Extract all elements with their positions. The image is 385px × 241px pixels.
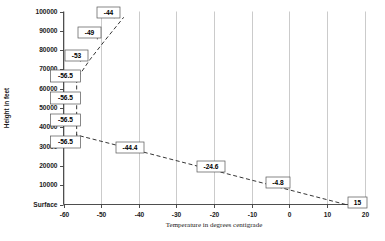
- x-tick-label-0: 0: [288, 211, 292, 218]
- callout-value: -24.6: [203, 163, 218, 170]
- x-tick-label--20: -20: [210, 211, 220, 218]
- y-tick-label-80000: 80000: [39, 46, 58, 53]
- x-axis-title: Temperature in degrees centigrade: [166, 221, 263, 229]
- chart-figure: Surface100002000030000400005000060000700…: [0, 0, 385, 241]
- temperature-altitude-chart: Surface100002000030000400005000060000700…: [0, 0, 385, 241]
- callout-label: 15: [348, 197, 367, 208]
- callout-value: 15: [354, 199, 362, 206]
- x-tick-label--60: -60: [60, 211, 70, 218]
- callout-label: -56.5: [51, 136, 81, 148]
- y-tick-label-10000: 10000: [39, 181, 58, 188]
- callout-label: -49: [78, 27, 101, 38]
- y-tick-label-20000: 20000: [39, 162, 58, 169]
- y-tick-label-100000: 100000: [35, 8, 57, 15]
- callout-label: -24.6: [197, 161, 225, 172]
- y-tick-label-60000: 60000: [39, 85, 58, 92]
- callout-value: -56.5: [58, 138, 73, 145]
- callout-label: -53: [65, 50, 88, 61]
- callout-value: -56.5: [58, 116, 73, 123]
- callout-label: -44.4: [116, 142, 144, 153]
- y-tick-label-Surface: Surface: [33, 201, 58, 208]
- callout-value: -53: [72, 52, 82, 59]
- callout-label: -4.8: [266, 177, 290, 188]
- x-axis-tick-labels: -60-50-40-30-20-1001020: [60, 211, 370, 218]
- y-axis-title: Height in feet: [3, 87, 11, 128]
- x-tick-label--50: -50: [97, 211, 107, 218]
- callout-value: -44.4: [122, 144, 137, 151]
- x-tick-label--40: -40: [135, 211, 145, 218]
- callout-value: -56.5: [58, 94, 73, 101]
- callout-label: -44: [97, 7, 120, 18]
- callout-value: -56.5: [58, 72, 73, 79]
- y-tick-label-50000: 50000: [39, 104, 58, 111]
- callout-label: -56.5: [51, 114, 81, 126]
- callout-label: -56.5: [51, 70, 81, 82]
- x-tick-label-10: 10: [324, 211, 332, 218]
- callout-value: -49: [85, 29, 95, 36]
- callout-value: -4.8: [272, 179, 284, 186]
- callout-label: -56.5: [51, 92, 81, 104]
- y-tick-label-90000: 90000: [39, 27, 58, 34]
- x-tick-label--30: -30: [172, 211, 182, 218]
- callout-value: -44: [104, 9, 114, 16]
- x-tick-label-20: 20: [362, 211, 370, 218]
- x-tick-label--10: -10: [248, 211, 258, 218]
